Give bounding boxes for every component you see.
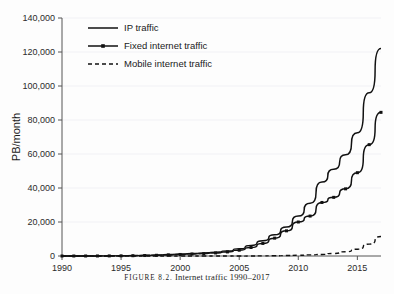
- figure-caption-text: Internet traffic 1990–2017: [175, 272, 270, 282]
- y-tick-label: 0: [50, 251, 55, 261]
- data-point-marker: [226, 250, 229, 253]
- data-series: [61, 49, 383, 258]
- y-tick-label: 140,000: [22, 13, 55, 23]
- data-point-marker: [179, 253, 182, 256]
- legend-marker: [101, 44, 105, 48]
- data-point-marker: [261, 242, 264, 245]
- axis-lines: [62, 18, 381, 256]
- figure-container: 020,00040,00060,00080,000100,000120,0001…: [0, 0, 394, 294]
- series-line-ip-traffic: [62, 49, 381, 256]
- data-point-marker: [320, 201, 323, 204]
- legend-label: IP traffic: [124, 22, 159, 33]
- chart-legend: IP trafficFixed internet trafficMobile i…: [88, 22, 212, 69]
- x-axis-ticks: 199019952000200520102015: [52, 256, 367, 273]
- figure-number: FIGURE 8.2.: [124, 274, 172, 282]
- data-point-marker: [356, 171, 359, 174]
- y-tick-label: 60,000: [27, 149, 55, 159]
- data-point-marker: [297, 221, 300, 224]
- y-tick-label: 80,000: [27, 115, 55, 125]
- data-point-marker: [368, 143, 371, 146]
- y-axis-ticks: 020,00040,00060,00080,000100,000120,0001…: [22, 13, 62, 261]
- data-point-marker: [214, 251, 217, 254]
- gridlines: [62, 18, 381, 222]
- data-point-marker: [202, 252, 205, 255]
- data-point-marker: [238, 249, 241, 252]
- y-tick-label: 20,000: [27, 217, 55, 227]
- legend-label: Mobile internet traffic: [124, 58, 212, 69]
- data-point-marker: [190, 253, 193, 256]
- data-point-marker: [344, 187, 347, 190]
- y-tick-label: 40,000: [27, 183, 55, 193]
- series-line-fixed-internet-traffic: [62, 112, 381, 256]
- internet-traffic-line-chart: 020,00040,00060,00080,000100,000120,0001…: [0, 0, 394, 294]
- y-tick-label: 120,000: [22, 47, 55, 57]
- data-point-marker: [285, 229, 288, 232]
- legend-label: Fixed internet traffic: [124, 40, 208, 51]
- y-axis-label: PB/month: [10, 113, 22, 161]
- data-point-marker: [380, 111, 383, 114]
- data-point-marker: [108, 254, 111, 257]
- data-point-marker: [273, 237, 276, 240]
- data-point-marker: [309, 215, 312, 218]
- figure-caption: FIGURE 8.2. Internet traffic 1990–2017: [0, 272, 394, 282]
- data-point-marker: [332, 196, 335, 199]
- data-point-marker: [143, 254, 146, 257]
- y-axis-title: PB/month: [10, 113, 22, 161]
- y-tick-label: 100,000: [22, 81, 55, 91]
- data-point-marker: [250, 246, 253, 249]
